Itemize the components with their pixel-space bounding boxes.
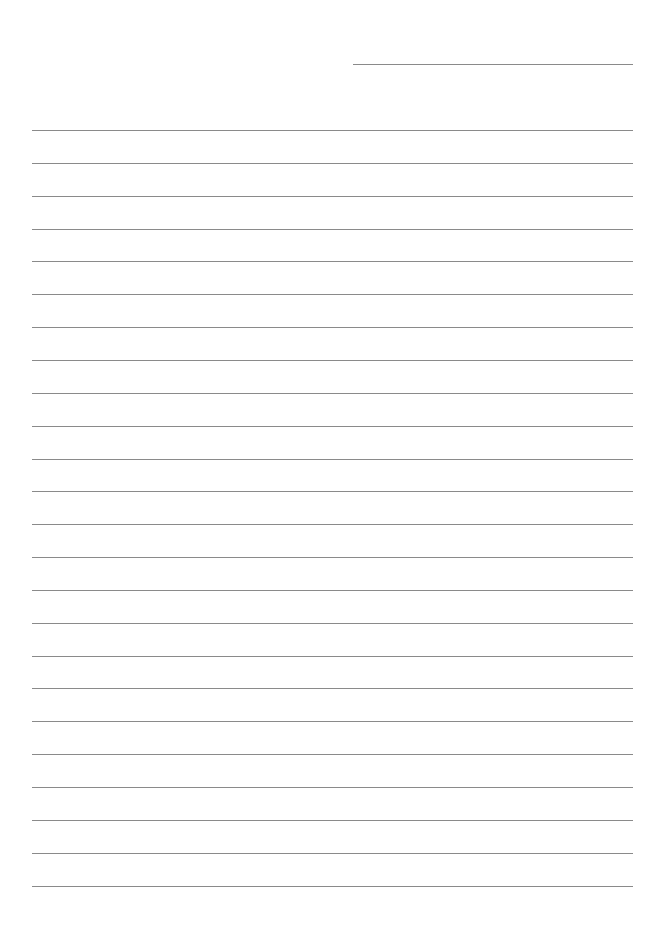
ruled-line [32, 721, 633, 722]
ruled-line [32, 426, 633, 427]
ruled-line [32, 557, 633, 558]
ruled-line [32, 261, 633, 262]
ruled-line [32, 590, 633, 591]
ruled-line [32, 459, 633, 460]
ruled-line [32, 886, 633, 887]
ruled-line [32, 360, 633, 361]
ruled-line [32, 294, 633, 295]
ruled-line [32, 656, 633, 657]
ruled-line [32, 688, 633, 689]
ruled-line [32, 820, 633, 821]
ruled-lines-area [32, 0, 633, 927]
ruled-line [32, 196, 633, 197]
ruled-line [32, 491, 633, 492]
ruled-line [32, 787, 633, 788]
ruled-line [32, 130, 633, 131]
ruled-line [32, 229, 633, 230]
ruled-line [32, 524, 633, 525]
ruled-line [32, 853, 633, 854]
ruled-line [32, 623, 633, 624]
ruled-line [32, 754, 633, 755]
ruled-line [32, 163, 633, 164]
lined-paper-page [0, 0, 665, 927]
ruled-line [32, 393, 633, 394]
ruled-line [32, 327, 633, 328]
